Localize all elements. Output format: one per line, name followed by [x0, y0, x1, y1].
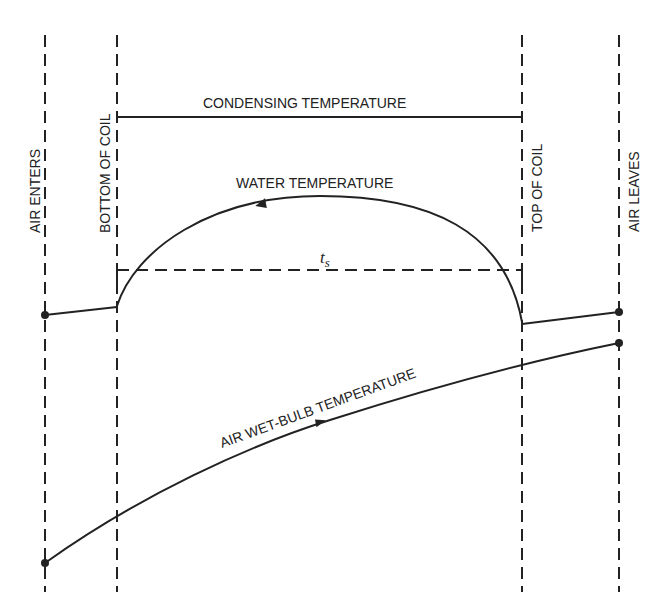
air-leaving-segment: [522, 312, 619, 324]
saturation-temperature-label: ts: [320, 248, 330, 270]
water-flow-arrow-icon: [254, 198, 267, 210]
air-leaving-point: [615, 308, 623, 316]
water-temperature-label: WATER TEMPERATURE: [236, 175, 393, 191]
air-entering-point: [41, 311, 49, 319]
air-enters-label: AIR ENTERS: [27, 149, 43, 233]
wet-bulb-leaving-point: [615, 339, 623, 347]
air-wet-bulb-curve: [45, 343, 619, 563]
coil-temperature-diagram: AIR ENTERS BOTTOM OF COIL TOP OF COIL AI…: [0, 0, 664, 608]
air-wet-bulb-label: AIR WET-BULB TEMPERATURE: [218, 365, 418, 451]
air-leaves-label: AIR LEAVES: [626, 151, 642, 232]
air-entering-segment: [45, 307, 117, 315]
bottom-of-coil-label: BOTTOM OF COIL: [97, 113, 113, 233]
top-of-coil-label: TOP OF COIL: [529, 144, 545, 232]
wet-bulb-entering-point: [41, 559, 49, 567]
condensing-temperature-label: CONDENSING TEMPERATURE: [203, 95, 406, 111]
